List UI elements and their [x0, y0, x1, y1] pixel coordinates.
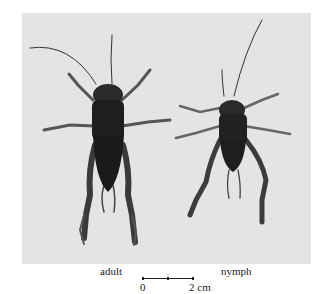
scale-bar-tick-mid: [167, 277, 169, 280]
scale-bar-tick-end: [192, 277, 194, 280]
scale-bar: [142, 277, 194, 281]
crickets-illustration: [22, 13, 311, 264]
scale-start-label: 0: [140, 281, 146, 293]
scale-end-label: 2 cm: [189, 281, 211, 293]
nymph-cricket: [176, 20, 290, 222]
specimen-photo: [22, 13, 311, 264]
scale-bar-tick-start: [142, 277, 144, 280]
adult-label: adult: [100, 265, 122, 277]
nymph-label: nymph: [221, 265, 252, 277]
adult-cricket: [30, 35, 170, 245]
